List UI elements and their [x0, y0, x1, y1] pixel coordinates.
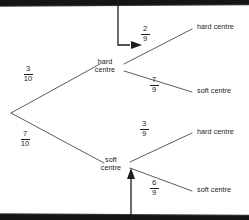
prob-2-9-numerator: 2	[137, 25, 153, 34]
leaf-soft-hard: hard centre	[197, 128, 234, 136]
prob-7-9-denominator: 9	[146, 86, 162, 95]
node-soft-centre: soft centre	[94, 156, 128, 173]
prob-2-9-denominator: 9	[137, 35, 153, 44]
leaf-soft-soft: soft centre	[197, 186, 231, 194]
tree-diagram-canvas: hard centre soft centre hard centre soft…	[0, 0, 249, 220]
node-soft-centre-line2: centre	[101, 163, 121, 172]
leaf-hard-hard: hard centre	[197, 23, 234, 31]
prob-7-9: 7 9	[146, 76, 162, 94]
prob-3-10-numerator: 3	[20, 65, 36, 74]
node-hard-centre-line2: centre	[95, 65, 115, 74]
prob-6-9-denominator: 9	[146, 189, 162, 198]
prob-3-10-denominator: 10	[20, 75, 36, 84]
prob-2-9: 2 9	[137, 25, 153, 43]
prob-7-10: 7 10	[17, 130, 33, 148]
prob-3-10: 3 10	[20, 65, 36, 83]
prob-7-10-numerator: 7	[17, 130, 33, 139]
node-hard-centre: hard centre	[88, 58, 122, 75]
prob-7-9-numerator: 7	[146, 76, 162, 85]
prob-6-9: 6 9	[146, 179, 162, 197]
prob-3-9-denominator: 9	[136, 130, 152, 139]
top-callout-arrow-shaft	[118, 0, 130, 45]
leaf-hard-soft: soft centre	[197, 87, 231, 95]
prob-3-9-numerator: 3	[136, 120, 152, 129]
prob-7-10-denominator: 10	[17, 140, 33, 149]
prob-6-9-numerator: 6	[146, 179, 162, 188]
prob-3-9: 3 9	[136, 120, 152, 138]
